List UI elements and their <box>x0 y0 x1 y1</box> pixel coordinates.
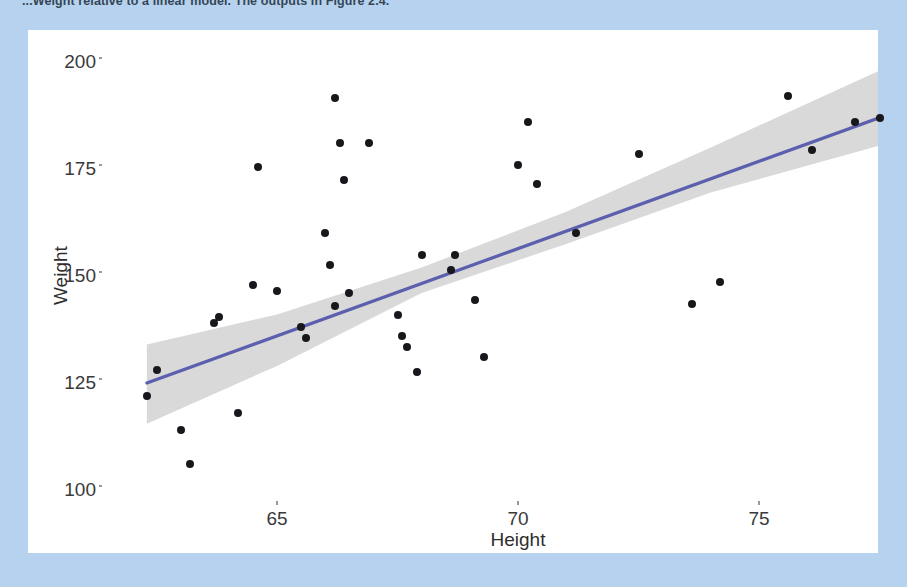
data-point <box>514 161 522 169</box>
data-point <box>524 118 532 126</box>
x-tick-label: 65 <box>247 508 307 530</box>
y-tick-label: 125 <box>64 372 96 394</box>
y-tick-label: 100 <box>64 479 96 501</box>
data-point <box>394 311 402 319</box>
data-point <box>471 296 479 304</box>
data-point <box>254 163 262 171</box>
y-tick-label: 175 <box>64 158 96 180</box>
y-tick-label: 200 <box>64 51 96 73</box>
data-point <box>331 302 339 310</box>
y-tick-mark <box>99 57 102 59</box>
data-point <box>451 251 459 259</box>
data-point <box>365 139 373 147</box>
data-point <box>635 150 643 158</box>
data-point <box>215 313 223 321</box>
data-point <box>273 287 281 295</box>
x-tick-label: 75 <box>729 508 789 530</box>
y-axis-title: Weight <box>50 247 72 306</box>
x-tick-mark <box>758 501 760 505</box>
data-point <box>302 334 310 342</box>
data-point <box>403 343 411 351</box>
x-tick-mark <box>276 501 278 505</box>
data-point <box>177 426 185 434</box>
data-point <box>153 366 161 374</box>
page-bleed-text: ...Weight relative to a linear model. Th… <box>22 0 542 10</box>
plot-svg-layer <box>28 30 878 553</box>
data-point <box>249 281 257 289</box>
data-point <box>808 146 816 154</box>
data-point <box>336 139 344 147</box>
y-tick-mark <box>99 485 102 487</box>
x-tick-label: 70 <box>488 508 548 530</box>
data-point <box>143 392 151 400</box>
data-point <box>688 300 696 308</box>
y-tick-mark <box>99 164 102 166</box>
data-point <box>447 266 455 274</box>
y-tick-mark <box>99 271 102 273</box>
confidence-band <box>147 71 878 424</box>
data-point <box>876 114 884 122</box>
x-axis-title: Height <box>438 529 598 551</box>
y-tick-mark <box>99 378 102 380</box>
data-point <box>572 229 580 237</box>
figure-card: 100125150175200 657075 Weight Height <box>28 30 878 553</box>
scatter-plot: 100125150175200 657075 Weight Height <box>28 30 878 553</box>
data-point <box>418 251 426 259</box>
regression-line <box>147 118 878 383</box>
x-tick-mark <box>517 501 519 505</box>
